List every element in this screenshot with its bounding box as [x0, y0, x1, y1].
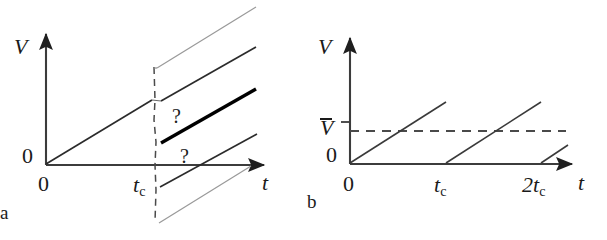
panel-a-branch-lower [160, 134, 257, 187]
panel-a-critical-time-dashed-line [154, 67, 156, 222]
panel-a-tc-label-sub: c [139, 184, 145, 199]
panel-a-branch-faint-upper [157, 7, 256, 68]
panel-b-sawtooth-cycle-1 [350, 102, 446, 163]
panel-b-sawtooth-cycle-2 [446, 102, 541, 163]
panel-a-origin-label-y: 0 [22, 145, 33, 167]
panel-b-tick-label-2tc-sub: c [539, 184, 545, 199]
panel-a-plot [46, 7, 264, 223]
figure-container: V 0 0 tc t ? ? a V V 0 0 tc 2tc t b [0, 0, 607, 240]
panel-a-origin-label-x: 0 [38, 173, 49, 195]
panel-b-tick-label-tc: tc [434, 174, 446, 196]
panel-a-precritical-ramp [46, 100, 152, 164]
panel-b-tick-label-tc-sub: c [440, 184, 446, 199]
panel-a-branch-upper [161, 47, 256, 101]
panel-b-sawtooth-cycle-3 [541, 145, 568, 163]
panel-b-tick-label-0: 0 [343, 173, 354, 195]
panel-a-y-axis-label: V [14, 36, 27, 58]
panel-a-tc-label: tc [133, 174, 145, 196]
panel-b-mean-label-vbar: V [320, 117, 333, 139]
panel-b-y-axis-label: V [318, 36, 331, 58]
panel-a-branch-elbow-mid [152, 100, 161, 101]
panel-a-tag: a [0, 203, 8, 222]
panel-b-plot [341, 38, 572, 164]
panel-b-tag: b [307, 192, 317, 211]
panel-b-x-axis-label: t [578, 172, 584, 194]
panel-a-question-upper: ? [172, 106, 181, 126]
panel-b-origin-label-y: 0 [326, 144, 337, 166]
panel-a-branch-faint-lower [159, 166, 251, 223]
figure-drawing [0, 0, 607, 240]
panel-a-x-axis-label: t [262, 172, 268, 194]
panel-a-question-lower: ? [180, 146, 189, 166]
panel-b-mean-overbar [320, 118, 332, 120]
panel-b-mean-label: V [320, 117, 333, 139]
panel-b-tick-label-2tc-main: 2t [522, 172, 539, 197]
panel-b-tick-label-2tc: 2tc [522, 174, 545, 196]
